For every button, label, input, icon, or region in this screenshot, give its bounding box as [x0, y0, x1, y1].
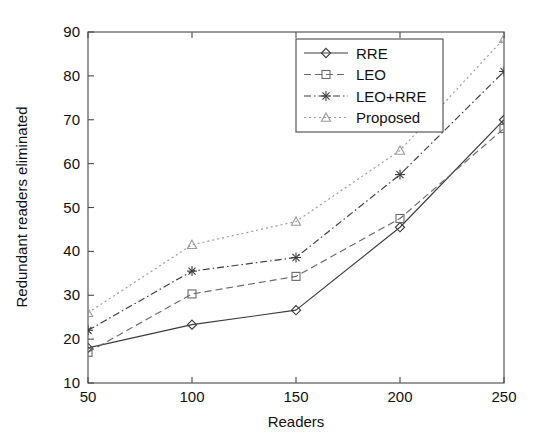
data-point-marker [187, 266, 197, 276]
chart-legend: RRELEOLEO+RREProposed [296, 39, 443, 132]
data-point-marker [395, 170, 405, 180]
series-line [88, 129, 504, 353]
y-tick-label: 30 [63, 286, 80, 303]
x-tick-label: 100 [179, 388, 204, 405]
legend-label-leo: LEO [356, 66, 386, 83]
x-axis-title: Readers [268, 413, 325, 430]
legend-label-proposed: Proposed [356, 109, 420, 126]
series-leo [84, 125, 508, 357]
y-axis-tick-labels: 102030405060708090 [63, 23, 80, 391]
legend-label-leo-plus-rre: LEO+RRE [356, 88, 426, 105]
data-point-marker [83, 325, 93, 335]
x-axis-tick-labels: 50100150200250 [80, 388, 517, 405]
y-tick-label: 40 [63, 242, 80, 259]
data-point-marker [291, 253, 301, 263]
y-tick-label: 20 [63, 330, 80, 347]
y-tick-label: 50 [63, 199, 80, 216]
data-point-marker [499, 66, 509, 76]
x-tick-label: 150 [283, 388, 308, 405]
series-line [88, 120, 504, 348]
y-tick-label: 70 [63, 111, 80, 128]
legend-sample-marker [321, 91, 331, 101]
legend-label-rre: RRE [356, 45, 388, 62]
x-tick-label: 50 [80, 388, 97, 405]
x-tick-label: 250 [491, 388, 516, 405]
x-tick-label: 200 [387, 388, 412, 405]
y-tick-label: 10 [63, 374, 80, 391]
y-tick-label: 90 [63, 23, 80, 40]
y-tick-label: 60 [63, 155, 80, 172]
y-tick-label: 80 [63, 67, 80, 84]
series-rre [83, 115, 508, 352]
y-axis-title: Redundant readers eliminated [13, 107, 30, 308]
line-chart: 102030405060708090 50100150200250 Reader… [0, 0, 540, 441]
chart-figure: 102030405060708090 50100150200250 Reader… [0, 0, 540, 441]
